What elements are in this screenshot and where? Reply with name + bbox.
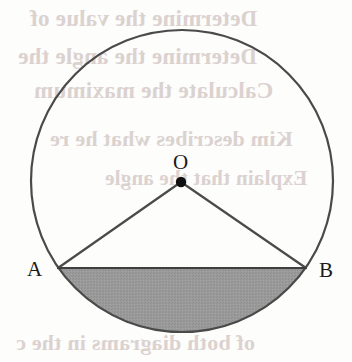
point-label-a: A [27,259,42,280]
shaded-segment [0,268,352,338]
radius-line-oa [58,182,181,268]
circle-diagram-svg [0,0,352,362]
point-label-b: B [319,260,333,281]
radius-line-ob [181,182,306,268]
geometry-figure: Determine the value of Determine the ang… [0,0,352,362]
centre-point-dot [176,177,186,187]
point-label-o: O [173,152,188,173]
